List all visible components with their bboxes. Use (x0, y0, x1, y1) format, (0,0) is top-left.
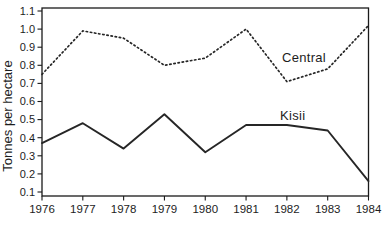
plot-frame (42, 8, 369, 196)
x-tick-label: 1978 (111, 203, 137, 215)
series-label-kisii: Kisii (280, 108, 305, 123)
x-tick-label: 1981 (233, 203, 259, 215)
y-tick-label: 1.0 (20, 23, 35, 35)
y-axis-title: Tonnes per hectare (0, 60, 15, 171)
chart-generated-layer: 0.10.20.30.40.50.60.70.80.91.01.11976197… (20, 5, 382, 215)
line-chart-figure: 0.10.20.30.40.50.60.70.80.91.01.11976197… (0, 0, 385, 230)
x-tick-label: 1983 (315, 203, 341, 215)
x-tick-label: 1979 (152, 203, 178, 215)
y-tick-label: 0.7 (20, 77, 35, 89)
y-tick-label: 0.3 (20, 150, 35, 162)
x-tick-label: 1982 (274, 203, 300, 215)
y-tick-label: 1.1 (20, 5, 35, 17)
x-tick-label: 1977 (70, 203, 96, 215)
y-tick-label: 0.9 (20, 41, 35, 53)
y-tick-label: 0.4 (20, 132, 35, 144)
x-tick-label: 1984 (356, 203, 382, 215)
x-tick-label: 1980 (192, 203, 218, 215)
series-label-central: Central (282, 50, 326, 65)
x-tick-label: 1976 (29, 203, 55, 215)
y-tick-label: 0.2 (20, 168, 35, 180)
y-tick-label: 0.1 (20, 186, 35, 198)
y-tick-label: 0.6 (20, 95, 35, 107)
y-tick-label: 0.8 (20, 59, 35, 71)
chart-canvas: 0.10.20.30.40.50.60.70.80.91.01.11976197… (0, 0, 385, 230)
y-tick-label: 0.5 (20, 113, 35, 125)
